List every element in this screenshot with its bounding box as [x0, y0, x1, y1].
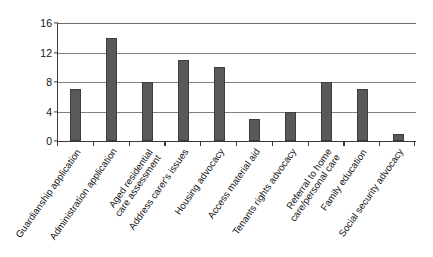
- bar[interactable]: [178, 60, 189, 141]
- y-tick-label: 16: [40, 18, 52, 29]
- bar[interactable]: [285, 112, 296, 142]
- bar-slot: [344, 23, 380, 141]
- bar-chart-figure: Number of patients 0481216 Guardianship …: [0, 0, 433, 257]
- y-tick-label: 4: [46, 106, 52, 117]
- bar-slot: [237, 23, 273, 141]
- x-tick-mark: [379, 141, 380, 146]
- x-tick-mark: [414, 141, 415, 146]
- x-axis-label: Administration application: [48, 147, 119, 243]
- bar-slot: [130, 23, 166, 141]
- x-axis-label: Social security advocacy: [337, 147, 406, 239]
- bars-layer: [58, 23, 416, 141]
- bar[interactable]: [357, 89, 368, 141]
- bar[interactable]: [249, 119, 260, 141]
- x-tick-mark: [129, 141, 130, 146]
- bar-slot: [380, 23, 416, 141]
- bar[interactable]: [70, 89, 81, 141]
- bar-slot: [165, 23, 201, 141]
- x-tick-mark: [272, 141, 273, 146]
- x-tick-mark: [57, 141, 58, 146]
- bar-slot: [273, 23, 309, 141]
- bar[interactable]: [393, 134, 404, 141]
- x-axis-ticks: [57, 141, 415, 146]
- x-tick-mark: [308, 141, 309, 146]
- x-axis-label: Tenants rights advocacy: [231, 147, 299, 237]
- y-tick-label: 0: [46, 136, 52, 147]
- bar[interactable]: [106, 38, 117, 141]
- x-tick-mark: [93, 141, 94, 146]
- bar-slot: [201, 23, 237, 141]
- bar[interactable]: [142, 82, 153, 141]
- x-tick-mark: [164, 141, 165, 146]
- x-tick-mark: [236, 141, 237, 146]
- x-axis-label: Guardianship application: [14, 147, 83, 239]
- bar[interactable]: [214, 67, 225, 141]
- x-tick-mark: [343, 141, 344, 146]
- y-tick-label: 8: [46, 77, 52, 88]
- x-tick-mark: [200, 141, 201, 146]
- y-tick-label: 12: [40, 47, 52, 58]
- bar[interactable]: [321, 82, 332, 141]
- bar-slot: [309, 23, 345, 141]
- bar-slot: [58, 23, 94, 141]
- x-axis-labels: Guardianship applicationAdministration a…: [57, 147, 415, 255]
- plot-area: 0481216: [57, 23, 416, 142]
- bar-slot: [94, 23, 130, 141]
